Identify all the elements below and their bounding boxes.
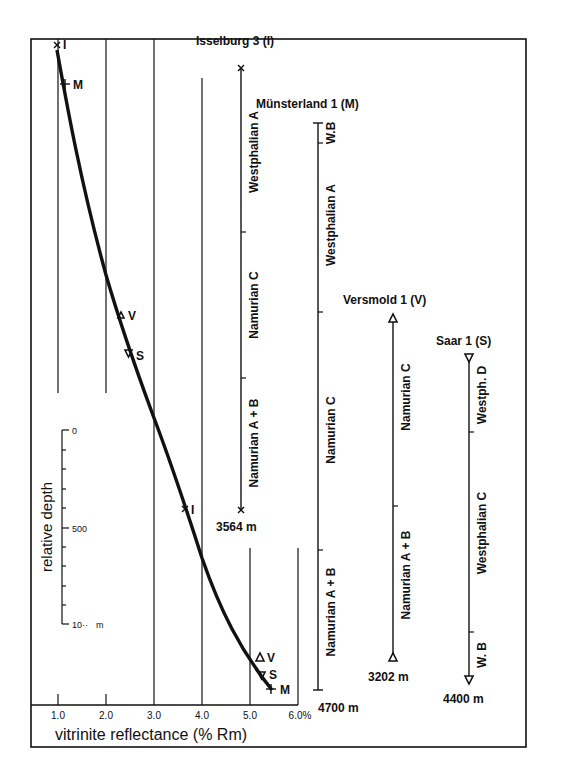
- scale-unit: m: [96, 620, 104, 630]
- unit-label: Westph. D: [475, 365, 489, 424]
- scale-label: relative depth: [38, 482, 55, 572]
- well-munsterland: Münsterland 1 (M) W.B Westphalian A Namu…: [256, 97, 359, 715]
- well-depth: 3202 m: [368, 670, 409, 684]
- unit-label: Westphalian A: [247, 111, 261, 193]
- unit-label: Namurian C: [399, 363, 413, 431]
- well-title: Münsterland 1 (M): [256, 97, 359, 111]
- well-title: Versmold 1 (V): [343, 293, 426, 307]
- x-tick: 4.0: [195, 710, 209, 721]
- marker-label-m-bot: M: [280, 683, 290, 697]
- marker-label-m-top: M: [73, 78, 83, 92]
- well-versmold: Versmold 1 (V) Namurian C Namurian A + B…: [343, 293, 426, 684]
- marker-label-v-top: V: [128, 309, 136, 323]
- x-tick: 2.0: [99, 710, 113, 721]
- x-tick: 5.0: [243, 710, 257, 721]
- marker-label-s-bot: S: [269, 668, 277, 682]
- well-saar: Saar 1 (S) Westph. D Westphalian C W. B …: [436, 334, 491, 706]
- well-depth: 4700 m: [318, 701, 359, 715]
- unit-label: W. B: [475, 642, 489, 668]
- marker-label-i-top: I: [63, 38, 66, 52]
- well-title: Isselburg 3 (I): [196, 34, 274, 48]
- reflectance-curve: [57, 50, 272, 690]
- x-tick-labels: 1.0 2.0 3.0 4.0 5.0 6.0%: [51, 710, 311, 721]
- unit-label: Namurian C: [324, 396, 338, 464]
- unit-label: Namurian A + B: [324, 567, 338, 656]
- marker-label-v-bot: V: [267, 651, 275, 665]
- unit-label: W.B: [324, 121, 338, 144]
- curve-markers: [54, 42, 276, 694]
- x-tick: 6.0%: [289, 710, 312, 721]
- well-depth: 4400 m: [443, 692, 484, 706]
- grid-lines: [58, 39, 298, 705]
- unit-label: Westphalian C: [475, 491, 489, 574]
- depth-scale-bar: [62, 430, 69, 624]
- x-tick: 1.0: [51, 710, 65, 721]
- x-axis-label: vitrinite reflectance (% Rm): [55, 726, 247, 743]
- scale-tick-0: 0: [72, 426, 77, 436]
- unit-label: Namurian A + B: [399, 530, 413, 619]
- figure: 1.0 2.0 3.0 4.0 5.0 6.0% vitrinite refle…: [0, 0, 562, 779]
- marker-label-s-top: S: [136, 349, 144, 363]
- unit-label: Westphalian A: [324, 184, 338, 266]
- scale-tick-500: 500: [72, 524, 87, 534]
- well-depth: 3564 m: [216, 520, 257, 534]
- scale-tick-1000: 10··: [72, 620, 88, 630]
- x-tick: 3.0: [147, 710, 161, 721]
- well-title: Saar 1 (S): [436, 334, 491, 348]
- unit-label: Namurian C: [247, 271, 261, 339]
- unit-label: Namurian A + B: [247, 398, 261, 487]
- outer-frame: [31, 39, 526, 747]
- marker-label-i-mid: I: [191, 503, 194, 517]
